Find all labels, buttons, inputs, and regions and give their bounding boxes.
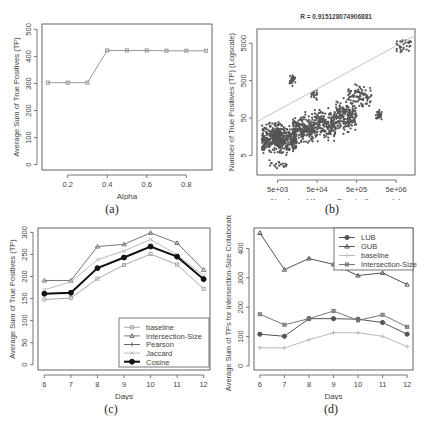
data-point bbox=[314, 120, 316, 122]
plus-marker bbox=[258, 346, 262, 350]
data-point bbox=[405, 49, 407, 51]
data-point bbox=[287, 134, 289, 136]
chart-c-svg: 6789101112Days050100150200250300Average … bbox=[0, 215, 214, 400]
data-point bbox=[376, 111, 378, 113]
caption-c: (c) bbox=[91, 402, 131, 417]
data-point bbox=[303, 131, 305, 133]
data-point bbox=[330, 130, 332, 132]
data-point bbox=[339, 102, 341, 104]
legend: LUBGUBbaselineIntersection-Size bbox=[334, 228, 417, 270]
data-point bbox=[366, 99, 368, 101]
data-point bbox=[270, 162, 272, 164]
x-tick-label: 10 bbox=[354, 380, 362, 389]
data-point bbox=[344, 118, 346, 120]
data-point bbox=[304, 111, 306, 113]
data-point bbox=[289, 129, 291, 131]
data-point bbox=[325, 135, 327, 137]
circle-marker bbox=[345, 235, 349, 239]
data-point bbox=[265, 123, 267, 125]
x-tick-label: 8 bbox=[307, 380, 311, 389]
data-point bbox=[285, 154, 287, 156]
panel-a: 0.20.40.60.8Alpha0100200300400500Average… bbox=[0, 0, 214, 215]
data-point bbox=[291, 85, 293, 87]
circle-marker bbox=[130, 359, 135, 364]
data-point bbox=[345, 101, 347, 103]
data-point bbox=[348, 89, 350, 91]
data-point bbox=[336, 124, 338, 126]
data-point bbox=[351, 102, 353, 104]
data-point bbox=[275, 136, 277, 138]
data-point bbox=[354, 107, 356, 109]
data-point bbox=[289, 75, 291, 77]
legend-label: Cosine bbox=[146, 358, 169, 367]
data-point bbox=[334, 132, 336, 134]
y-axis: 0100200300400500Average Sum of True Posi… bbox=[12, 23, 37, 167]
x-axis: 6789101112Days bbox=[42, 375, 208, 400]
data-point bbox=[290, 80, 292, 82]
data-point bbox=[357, 96, 359, 98]
data-point bbox=[262, 129, 264, 131]
y-tick-label: 5000 bbox=[239, 35, 248, 52]
data-point bbox=[348, 109, 350, 111]
data-point bbox=[345, 105, 347, 107]
data-point bbox=[262, 132, 264, 134]
data-point bbox=[336, 108, 338, 110]
x-axis-title: Alpha bbox=[117, 192, 138, 200]
y-axis: 5505005000Number of True Positives (TP) … bbox=[227, 33, 252, 171]
x-tick-label: 11 bbox=[379, 380, 387, 389]
data-point bbox=[336, 110, 338, 112]
data-point bbox=[323, 124, 325, 126]
data-point bbox=[316, 92, 318, 94]
y-axis-title: Average Sum of TPs for Intersection-Size… bbox=[224, 215, 233, 391]
circle-marker bbox=[201, 277, 206, 282]
data-point bbox=[300, 133, 302, 135]
circle-marker bbox=[122, 255, 127, 260]
circle-marker bbox=[331, 317, 335, 321]
y-tick-label: 0 bbox=[236, 364, 245, 368]
data-point bbox=[348, 122, 350, 124]
caption-d: (d) bbox=[311, 402, 351, 417]
data-point bbox=[310, 138, 312, 140]
series-line bbox=[260, 333, 407, 348]
legend-label: GUB bbox=[361, 242, 377, 251]
data-point bbox=[292, 147, 294, 149]
data-point bbox=[396, 48, 398, 50]
data-point bbox=[350, 127, 352, 129]
data-point bbox=[305, 128, 307, 130]
data-point bbox=[294, 81, 296, 83]
data-point bbox=[333, 140, 335, 142]
data-point bbox=[292, 119, 294, 121]
data-point bbox=[261, 139, 263, 141]
data-point bbox=[315, 122, 317, 124]
plus-marker bbox=[405, 344, 409, 348]
data-point bbox=[351, 95, 353, 97]
y-tick-label: 400 bbox=[236, 242, 245, 255]
data-point bbox=[404, 42, 406, 44]
data-point bbox=[344, 111, 346, 113]
data-point bbox=[263, 127, 265, 129]
data-point bbox=[342, 133, 344, 135]
chart-b-svg: R = 0.9151280749068815e+035e+045e+055e+0… bbox=[214, 0, 428, 200]
plus-marker bbox=[380, 334, 384, 338]
data-point bbox=[326, 126, 328, 128]
series-lub bbox=[258, 317, 409, 339]
data-point bbox=[269, 164, 271, 166]
data-point bbox=[368, 105, 370, 107]
circle-marker bbox=[148, 244, 153, 249]
data-point bbox=[351, 116, 353, 118]
data-point bbox=[354, 92, 356, 94]
data-point bbox=[355, 112, 357, 114]
data-point bbox=[304, 114, 306, 116]
data-point bbox=[346, 131, 348, 133]
circle-marker bbox=[42, 291, 47, 296]
data-point bbox=[361, 104, 363, 106]
data-point bbox=[311, 136, 313, 138]
data-point bbox=[275, 132, 277, 134]
data-point bbox=[307, 142, 309, 144]
data-point bbox=[359, 92, 361, 94]
data-point bbox=[327, 107, 329, 109]
data-point bbox=[295, 122, 297, 124]
data-point bbox=[301, 130, 303, 132]
circle-marker bbox=[405, 332, 409, 336]
x-axis: 6789101112Days bbox=[258, 375, 411, 400]
